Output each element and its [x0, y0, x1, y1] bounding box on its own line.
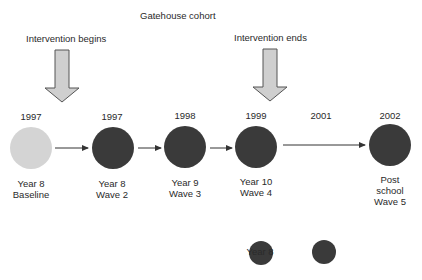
wave-label-line: Year 9 [169, 177, 201, 188]
wave-label: Year 8 Baseline [13, 178, 49, 200]
gap-year-label: 2001 [310, 110, 331, 121]
wave-label-line: Wave 5 [374, 196, 406, 207]
wave-label: Post school Wave 5 [374, 174, 406, 207]
subsequent-survey-circle [312, 240, 336, 264]
subsequent-survey-label: Year 8 [246, 246, 273, 257]
wave-label-line: Year 8 [13, 178, 49, 189]
wave-label: Year 8 Wave 2 [96, 178, 128, 200]
wave-label-line: Year 8 [96, 178, 128, 189]
wave-year-label: 1999 [245, 110, 266, 121]
wave-label-line: school [374, 185, 406, 196]
wave-year-label: 1997 [20, 111, 41, 122]
wave-label-line: Wave 4 [240, 187, 272, 198]
wave-circle-wave5 [369, 124, 411, 166]
wave-label-line: Wave 3 [169, 188, 201, 199]
wave-year-label: 2002 [379, 110, 400, 121]
wave-circle-wave2 [92, 127, 134, 169]
wave-circle-baseline [10, 127, 52, 169]
wave-label: Year 10 Wave 4 [240, 176, 272, 198]
intervention-ends-arrow-icon [253, 49, 287, 101]
wave-year-label: 1997 [101, 111, 122, 122]
wave-label-line: Baseline [13, 189, 49, 200]
wave-label-line: Wave 2 [96, 189, 128, 200]
wave-year-label: 1998 [174, 110, 195, 121]
wave-circle-wave3 [164, 126, 206, 168]
wave-label-line: Year 10 [240, 176, 272, 187]
arrows-layer [0, 0, 422, 280]
intervention-begins-arrow-icon [45, 50, 79, 102]
wave-circle-wave4 [235, 126, 277, 168]
wave-label: Year 9 Wave 3 [169, 177, 201, 199]
wave-label-line: Post [374, 174, 406, 185]
